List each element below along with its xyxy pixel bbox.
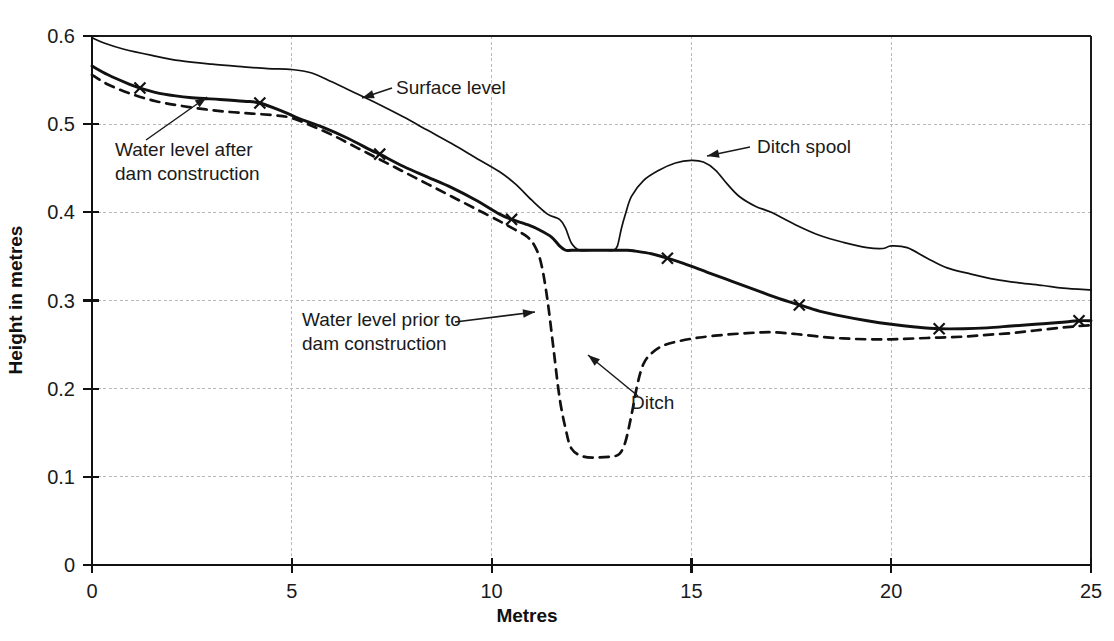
y-tick-label: 0.1	[47, 466, 75, 488]
y-tick-label: 0.6	[47, 25, 75, 47]
x-tick-label: 25	[1080, 580, 1102, 602]
annotation-label-water-level-after-line2: dam construction	[115, 163, 260, 184]
x-tick-label: 15	[680, 580, 702, 602]
x-tick-label: 20	[880, 580, 902, 602]
annotation-label-ditch: Ditch	[631, 392, 674, 413]
y-tick-label: 0.5	[47, 113, 75, 135]
annotation-label-water-level-prior-line2: dam construction	[302, 333, 447, 354]
y-tick-label: 0.3	[47, 290, 75, 312]
x-tick-label: 5	[286, 580, 297, 602]
annotation-label-water-level-prior-line1: Water level prior to	[302, 309, 461, 330]
y-tick-label: 0.2	[47, 378, 75, 400]
x-tick-label: 10	[480, 580, 502, 602]
annotation-label-ditch-spool: Ditch spool	[757, 136, 851, 157]
x-axis-title: Metres	[496, 605, 557, 626]
x-tick-label: 0	[86, 580, 97, 602]
y-axis-title: Height in metres	[5, 226, 26, 375]
chart-container: 00.10.20.30.40.50.6 0510152025 Surface l…	[0, 0, 1114, 641]
annotation-label-water-level-after-line1: Water level after	[115, 139, 253, 160]
ditch-cross-section-chart: 00.10.20.30.40.50.6 0510152025 Surface l…	[0, 0, 1114, 641]
annotation-label-surface-level: Surface level	[396, 77, 506, 98]
y-tick-label: 0	[64, 554, 75, 576]
y-tick-label: 0.4	[47, 201, 75, 223]
